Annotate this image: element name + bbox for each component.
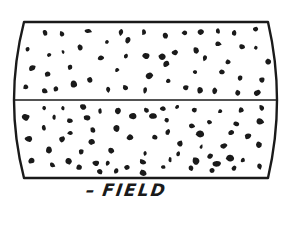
particle (62, 50, 65, 54)
particle (60, 31, 65, 36)
particle (42, 125, 46, 131)
particle (106, 87, 110, 93)
particle (212, 88, 217, 95)
particle (71, 80, 77, 87)
particle (143, 151, 146, 156)
particle (79, 149, 84, 154)
particle (84, 115, 91, 120)
particle (129, 113, 137, 119)
particle (108, 148, 114, 154)
particle (144, 108, 149, 113)
particle (68, 65, 73, 70)
particle (127, 134, 134, 140)
particle (25, 136, 33, 142)
particle (218, 109, 222, 113)
particle (22, 114, 30, 121)
particle (235, 90, 240, 96)
particle (160, 106, 166, 111)
particle (105, 40, 109, 44)
particle (177, 141, 183, 147)
particle (176, 151, 180, 156)
particle (189, 165, 194, 171)
particle (78, 44, 83, 50)
particle (225, 59, 230, 64)
particle (192, 108, 197, 113)
particle (216, 28, 220, 33)
particle (254, 90, 261, 96)
particle (209, 168, 214, 173)
particle (52, 115, 55, 120)
particle (124, 165, 130, 170)
particle (175, 105, 179, 109)
particle (43, 30, 48, 36)
particle (98, 108, 101, 113)
particle (166, 79, 171, 83)
particle (143, 87, 147, 93)
particle (46, 147, 52, 154)
particle (183, 85, 189, 90)
particle (198, 29, 204, 35)
figure-caption: –FIELD (85, 180, 169, 200)
particle (76, 164, 82, 169)
particle (220, 143, 227, 148)
particle (125, 37, 130, 44)
particle (119, 29, 123, 36)
particle (28, 158, 34, 164)
particle (50, 162, 55, 167)
particle (239, 107, 244, 112)
particle (256, 142, 262, 148)
particle (254, 46, 258, 50)
particle (193, 158, 200, 165)
particle (212, 161, 220, 167)
particle (146, 73, 154, 80)
particle (219, 70, 225, 75)
particle (87, 77, 93, 83)
particle (113, 125, 119, 132)
particle (67, 118, 73, 123)
particle (45, 72, 51, 77)
particle (97, 169, 103, 174)
particle (124, 54, 128, 59)
caption-text: FIELD (101, 180, 168, 200)
particle (259, 77, 264, 82)
particle (203, 55, 207, 61)
particle (193, 70, 197, 74)
particle (228, 130, 234, 135)
particle (189, 124, 195, 129)
particle-group (22, 27, 271, 176)
particle (80, 104, 86, 110)
particle (207, 153, 213, 158)
particle (193, 47, 199, 53)
particle (152, 135, 157, 140)
particle (164, 118, 169, 122)
particle (163, 61, 169, 67)
particle (88, 139, 95, 145)
particle (26, 47, 30, 52)
particle (67, 131, 73, 135)
particle (114, 168, 118, 173)
particle (42, 88, 48, 93)
particle (165, 129, 170, 135)
particle (115, 68, 119, 72)
particle (158, 54, 165, 61)
particle (182, 31, 188, 36)
particle (142, 29, 146, 35)
particle (140, 169, 147, 176)
particle (232, 30, 237, 36)
particle (23, 85, 28, 90)
particle (163, 33, 168, 39)
particle (238, 76, 243, 81)
particle (106, 161, 110, 166)
particle (257, 118, 265, 124)
particle (123, 85, 128, 90)
particle (196, 130, 204, 137)
particle (140, 159, 146, 164)
particle (142, 53, 149, 59)
particle (226, 155, 234, 162)
particle (54, 86, 59, 91)
particle (90, 127, 95, 132)
particle (245, 134, 251, 140)
particle (239, 44, 245, 49)
particle (259, 105, 264, 111)
particle (257, 163, 262, 169)
